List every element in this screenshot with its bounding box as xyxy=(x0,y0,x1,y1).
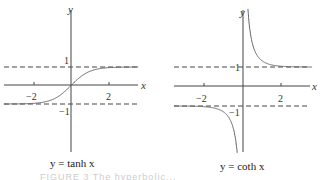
figure-canvas: y x 1 −1 −2 2 y x 1 −1 −2 2 xyxy=(0,0,322,180)
x-axis-label: x xyxy=(311,80,317,92)
y-tick-neg1: −1 xyxy=(59,106,70,117)
figure-caption: FIGURE 3 The hyperbolic... xyxy=(40,172,176,180)
tanh-plot: y x 1 −1 −2 2 xyxy=(4,3,146,152)
coth-caption: y = coth x xyxy=(220,160,264,172)
coth-curve-negative xyxy=(174,106,237,153)
x-axis-label: x xyxy=(140,79,146,91)
x-tick-2: 2 xyxy=(106,91,111,102)
x-tick-2: 2 xyxy=(278,93,283,104)
x-tick-neg2: −2 xyxy=(196,93,207,104)
coth-curve-positive xyxy=(248,9,312,67)
y-axis-label: y xyxy=(67,3,73,15)
y-tick-neg1: −1 xyxy=(229,107,240,118)
y-tick-1: 1 xyxy=(235,62,240,73)
y-tick-1: 1 xyxy=(64,55,69,66)
y-axis-label: y xyxy=(239,6,245,18)
coth-plot: y x 1 −1 −2 2 xyxy=(174,6,317,153)
tanh-caption: y = tanh x xyxy=(50,157,94,169)
x-tick-neg2: −2 xyxy=(26,91,37,102)
